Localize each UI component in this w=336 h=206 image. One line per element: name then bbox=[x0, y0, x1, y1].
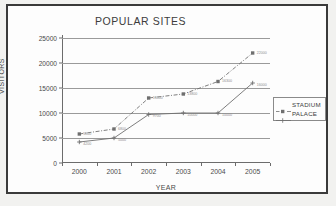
page-background: POPULAR SITES VISITORS YEAR 050001000015… bbox=[0, 0, 336, 206]
data-point-label: 13800 bbox=[187, 92, 197, 96]
series-layer bbox=[62, 38, 270, 163]
x-tick-mark bbox=[97, 163, 98, 166]
x-axis-title: YEAR bbox=[62, 184, 270, 191]
y-tick-label: 15000 bbox=[39, 85, 57, 92]
data-point-label: 9700 bbox=[153, 114, 161, 118]
legend-key-plus-icon bbox=[276, 110, 291, 117]
data-point-label: 4200 bbox=[83, 142, 91, 146]
y-axis-title: VISITORS bbox=[0, 58, 5, 94]
data-point-marker bbox=[147, 96, 150, 99]
y-tick-label: 25000 bbox=[39, 35, 57, 42]
legend-item-stadium[interactable]: STADIUM bbox=[276, 100, 323, 109]
data-point-label: 5800 bbox=[83, 132, 91, 136]
chart-title: POPULAR SITES bbox=[8, 15, 273, 27]
data-point-label: 10000 bbox=[187, 113, 197, 117]
x-tick-mark bbox=[131, 163, 132, 166]
data-point-label: 13000 bbox=[153, 96, 163, 100]
data-point-marker bbox=[78, 132, 81, 135]
x-tick-label: 2002 bbox=[141, 168, 156, 175]
y-tick-label: 5000 bbox=[42, 135, 57, 142]
x-tick-label: 2005 bbox=[245, 168, 260, 175]
y-tick-label: 0 bbox=[53, 160, 57, 167]
x-tick-mark bbox=[201, 163, 202, 166]
x-tick-mark bbox=[166, 163, 167, 166]
chart-legend: STADIUM PALACE bbox=[273, 97, 326, 121]
x-tick-mark bbox=[235, 163, 236, 166]
data-point-label: 10000 bbox=[222, 113, 232, 117]
series-line-stadium bbox=[79, 53, 252, 134]
data-point-label: 16000 bbox=[257, 83, 267, 87]
legend-item-palace[interactable]: PALACE bbox=[276, 109, 323, 118]
legend-label-palace: PALACE bbox=[292, 110, 317, 117]
data-point-label: 6800 bbox=[118, 127, 126, 131]
data-point-marker bbox=[182, 92, 185, 95]
data-point-marker bbox=[112, 127, 115, 130]
x-tick-label: 2000 bbox=[72, 168, 87, 175]
data-point-marker bbox=[181, 111, 185, 115]
data-point-marker bbox=[251, 51, 254, 54]
legend-key-square-icon bbox=[276, 101, 291, 108]
legend-label-stadium: STADIUM bbox=[292, 101, 321, 108]
data-point-label: 5000 bbox=[118, 138, 126, 142]
data-point-label: 16300 bbox=[222, 79, 232, 83]
y-tick-label: 20000 bbox=[39, 60, 57, 67]
chart-container: POPULAR SITES VISITORS YEAR 050001000015… bbox=[8, 6, 326, 192]
data-point-marker bbox=[216, 80, 219, 83]
x-tick-mark bbox=[270, 163, 271, 166]
data-point-marker bbox=[77, 140, 81, 144]
x-tick-label: 2004 bbox=[210, 168, 225, 175]
x-tick-label: 2001 bbox=[106, 168, 121, 175]
plot-area: 0500010000150002000025000 20002001200220… bbox=[62, 38, 270, 163]
x-tick-label: 2003 bbox=[176, 168, 191, 175]
y-tick-label: 10000 bbox=[39, 110, 57, 117]
data-point-label: 22000 bbox=[257, 51, 267, 55]
